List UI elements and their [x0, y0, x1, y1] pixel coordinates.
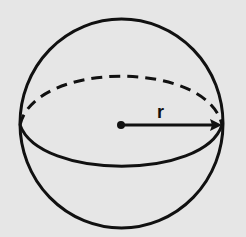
- sphere-diagram: [0, 0, 246, 237]
- equator-front: [20, 125, 222, 166]
- equator-back-dashed: [20, 76, 222, 125]
- radius-label: r: [157, 103, 164, 121]
